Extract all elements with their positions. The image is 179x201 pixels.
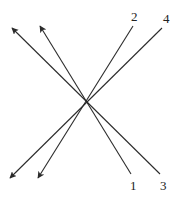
line-1: 1 — [40, 26, 137, 193]
line-3-label: 3 — [160, 178, 167, 193]
line-4-label: 4 — [163, 11, 170, 26]
line-2: 2 — [38, 9, 138, 178]
line-4-stroke — [10, 28, 162, 178]
line-3: 3 — [12, 28, 167, 193]
intersecting-lines-diagram: 1 3 2 4 — [0, 0, 179, 201]
line-1-label: 1 — [130, 178, 137, 193]
line-2-label: 2 — [131, 9, 138, 24]
line-2-stroke — [38, 26, 133, 178]
